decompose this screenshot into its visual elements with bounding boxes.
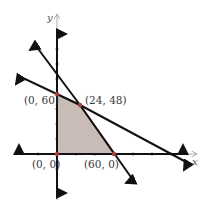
diagram-canvas: y x (0, 60) (24, 48) (0, 0) (60, 0) [0,0,217,205]
vertex-dot-24-48 [78,103,82,107]
vertex-dot-origin [55,152,59,156]
vertex-label-0-60: (0, 60) [24,94,59,106]
vertex-label-origin: (0, 0) [32,158,60,170]
vertex-dot-60-0 [112,152,116,156]
y-axis-label: y [46,12,53,23]
coordinate-axes [14,14,197,200]
vertex-label-60-0: (60, 0) [84,158,119,170]
x-axis-label: x [192,156,198,167]
vertex-label-24-48: (24, 48) [85,94,127,106]
